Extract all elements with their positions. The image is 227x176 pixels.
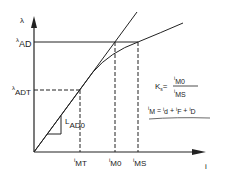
slope-label: LAD0	[65, 117, 86, 130]
imt-label: iMT	[74, 157, 87, 168]
im0-label: iM0	[109, 157, 122, 168]
svg-text:iM = id +: iM = id + iF + iD	[148, 105, 196, 115]
ims-label: iMS	[133, 157, 146, 168]
im-equation: iM = id + iF + iD	[148, 105, 210, 119]
magnetization-diagram: λ i λAD λADT LAD0 iMT iM0 iMS Ks= iM0	[0, 0, 227, 176]
svg-text:Ks=: Ks=	[155, 82, 168, 92]
svg-text:iM0: iM0	[174, 75, 185, 85]
ks-equation: Ks= iM0 iMS	[155, 75, 198, 98]
lambda-ad-label: λAD	[16, 37, 32, 49]
y-axis-label: λ	[20, 16, 24, 25]
x-axis-arrow-icon	[192, 149, 206, 155]
lambda-adt-label: λADT	[12, 85, 31, 97]
svg-text:iMS: iMS	[174, 88, 186, 98]
y-axis-arrow-icon	[31, 16, 37, 28]
equation-underline	[149, 118, 210, 119]
x-axis-label: i	[205, 162, 207, 171]
